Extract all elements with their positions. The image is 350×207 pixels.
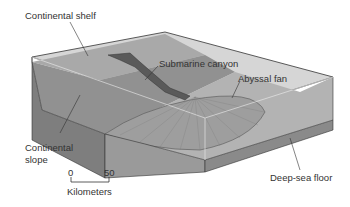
label-submarine-canyon: Submarine canyon bbox=[159, 58, 238, 69]
label-deep-sea-floor: Deep-sea floor bbox=[270, 172, 332, 183]
scale-start: 0 bbox=[68, 167, 73, 178]
label-continental-slope-line2: slope bbox=[25, 154, 48, 165]
label-abyssal-fan: Abyssal fan bbox=[238, 73, 287, 84]
scale-end: 50 bbox=[104, 167, 115, 178]
scale-unit: Kilometers bbox=[67, 186, 112, 197]
label-continental-shelf: Continental shelf bbox=[25, 10, 96, 21]
label-continental-slope-line1: Continental bbox=[25, 142, 73, 153]
